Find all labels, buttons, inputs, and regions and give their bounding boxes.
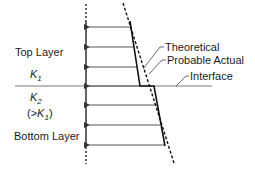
layered-flow-diagram: Top Layer K1 K2 (>K1) Bottom Layer Theor…: [0, 0, 255, 169]
probable-actual-label: Probable Actual: [167, 54, 244, 66]
probable-actual-profile: [123, 3, 174, 163]
bottom-layer-label: Bottom Layer: [14, 130, 80, 142]
top-layer-label: Top Layer: [15, 46, 64, 58]
probable-actual-leader: [149, 60, 166, 74]
theoretical-profile: [130, 21, 165, 146]
k2-relation-label: (>K1): [27, 107, 53, 122]
theoretical-label: Theoretical: [165, 41, 219, 53]
interface-label: Interface: [190, 70, 233, 82]
theoretical-leader: [143, 47, 164, 69]
interface-leader: [176, 76, 189, 86]
k2-label: K2: [30, 91, 42, 106]
k1-label: K1: [30, 68, 42, 83]
